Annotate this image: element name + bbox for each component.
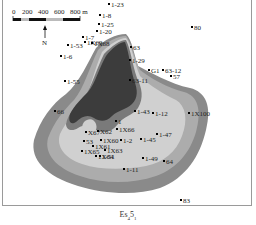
well-dot-icon: [83, 140, 85, 142]
well-1-8: 1-8: [99, 12, 112, 20]
well-label: 1-47: [159, 131, 172, 139]
well-label: 64: [166, 158, 174, 166]
well-dot-icon: [180, 199, 182, 201]
well-dot-icon: [152, 112, 154, 114]
well-X62: X62: [97, 128, 113, 136]
well-label: 63-11: [132, 77, 149, 85]
well-label: X67: [88, 129, 101, 137]
well-1-49: 1-49: [142, 155, 158, 163]
well-dot-icon: [163, 160, 165, 162]
well-label: 83: [183, 197, 191, 205]
well-label: 1-45: [143, 136, 156, 144]
well-dot-icon: [188, 112, 190, 114]
scale-bar: 0 200 400 600 800 m: [12, 8, 88, 21]
well-1-51: 1-51: [99, 153, 115, 161]
well-dot-icon: [97, 130, 99, 132]
well-1-47: 1-47: [156, 131, 172, 139]
well-label: 1-55: [67, 78, 80, 86]
well-dot-icon: [82, 36, 84, 38]
north-label: N: [42, 39, 47, 47]
well-1-45: 1-45: [140, 136, 156, 144]
map-caption: Es451: [0, 210, 256, 221]
well-label: 1-49: [145, 155, 158, 163]
well-dot-icon: [67, 44, 69, 46]
well-83: 83: [180, 197, 191, 205]
well-label: 66: [57, 108, 65, 116]
well-dot-icon: [129, 59, 131, 61]
north-arrow-icon: N: [42, 25, 47, 47]
caption-text: Es: [120, 210, 128, 219]
well-1-53: 1-53: [67, 42, 83, 50]
well-dot-icon: [162, 69, 164, 71]
well-1-6: 1-6: [60, 53, 73, 61]
well-dot-icon: [96, 30, 98, 32]
well-dot-icon: [148, 69, 150, 71]
well-label: 1-2: [123, 137, 133, 145]
well-1-23: 1-23: [108, 1, 124, 9]
well-80: 80: [191, 24, 202, 32]
well-dot-icon: [64, 80, 66, 82]
well-label: G1: [151, 67, 160, 75]
well-1X100: 1X100: [188, 110, 211, 118]
well-1-12: 1-12: [152, 110, 168, 118]
contour-map: 0 200 400 600 800 m N 1-231-81-251-201-7…: [0, 0, 256, 225]
well-dot-icon: [129, 79, 131, 81]
well-dot-icon: [108, 3, 110, 5]
well-dot-icon: [98, 23, 100, 25]
well-dot-icon: [140, 138, 142, 140]
well-dot-icon: [120, 139, 122, 141]
well-dot-icon: [99, 14, 101, 16]
well-label: 1-43: [137, 108, 150, 116]
well-dot-icon: [91, 42, 93, 44]
well-label: X62: [100, 128, 113, 136]
well-1-55: 1-55: [64, 78, 80, 86]
well-dot-icon: [100, 139, 102, 141]
well-dot-icon: [130, 46, 132, 48]
well-label: 1: [118, 118, 122, 126]
well-dot-icon: [104, 149, 106, 151]
well-dot-icon: [85, 131, 87, 133]
well-dot-icon: [81, 150, 83, 152]
well-dot-icon: [99, 155, 101, 157]
well-dot-icon: [54, 110, 56, 112]
well-dot-icon: [134, 110, 136, 112]
well-label: 1X68: [94, 40, 110, 48]
well-dot-icon: [191, 26, 193, 28]
well-label: 1-23: [111, 1, 124, 9]
well-dot-icon: [116, 128, 118, 130]
scale-tick-800: 800 m: [70, 8, 88, 16]
well-label: 1-6: [63, 53, 73, 61]
scale-tick-400: 400: [38, 8, 49, 16]
well-1-29: 1-29: [129, 57, 145, 65]
scale-tick-600: 600: [54, 8, 65, 16]
well-label: 63: [133, 44, 141, 52]
well-label: 1-11: [126, 166, 139, 174]
well-1X68: 1X68: [91, 40, 110, 48]
well-label: 1-29: [132, 57, 145, 65]
well-1-43: 1-43: [134, 108, 150, 116]
scale-tick-200: 200: [22, 8, 33, 16]
well-label: 57: [173, 73, 181, 81]
well-dot-icon: [170, 75, 172, 77]
well-dot-icon: [115, 120, 117, 122]
well-label: 53: [86, 138, 94, 146]
scale-tick-0: 0: [12, 8, 16, 16]
well-dot-icon: [84, 41, 86, 43]
well-dot-icon: [156, 133, 158, 135]
well-X67: X67: [85, 129, 101, 137]
well-label: 80: [194, 24, 202, 32]
well-label: 1X100: [191, 110, 211, 118]
well-label: 1-8: [102, 12, 112, 20]
well-label: 1-53: [70, 42, 83, 50]
well-dot-icon: [95, 155, 97, 157]
well-label: 1X66: [119, 126, 135, 134]
well-dot-icon: [60, 55, 62, 57]
well-1-20: 1-20: [96, 28, 112, 36]
well-label: 1-51: [102, 153, 115, 161]
well-label: 1-12: [155, 110, 168, 118]
well-1X66: 1X66: [116, 126, 135, 134]
well-dot-icon: [123, 168, 125, 170]
well-1-11: 1-11: [123, 166, 139, 174]
caption-sub2: 1: [134, 216, 137, 221]
well-label: 1-20: [99, 28, 112, 36]
